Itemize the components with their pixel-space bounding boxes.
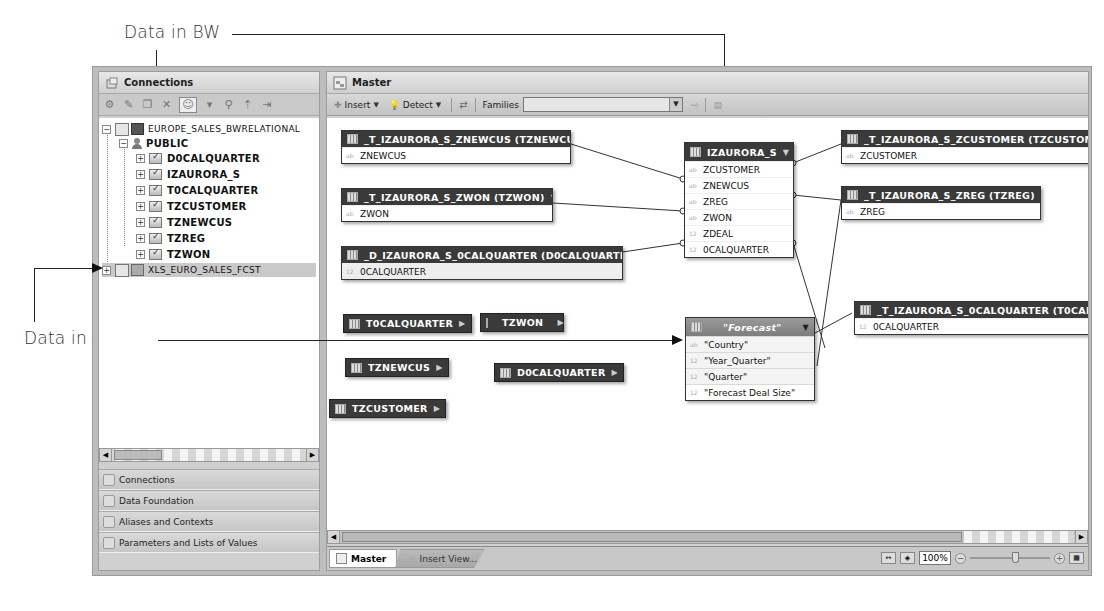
tree-item-table[interactable]: + TZWON bbox=[136, 247, 210, 261]
tree-item-table[interactable]: + IZAURORA_S bbox=[136, 167, 240, 181]
overview-icon[interactable]: ▦ bbox=[1069, 552, 1084, 564]
column-row[interactable]: abZWON bbox=[685, 209, 793, 225]
column-row[interactable]: 120CALQUARTER bbox=[685, 241, 793, 257]
delete-icon[interactable]: ✕ bbox=[160, 98, 173, 111]
table-header[interactable]: _T_IZAURORA_S_0CALQUARTER (T0CALQUARTER) bbox=[855, 302, 1088, 318]
collapsed-table-tznewcus[interactable]: TZNEWCUS ▶ bbox=[345, 358, 449, 377]
tree-item-table[interactable]: + TZREG bbox=[136, 231, 205, 245]
scroll-right-button[interactable]: ▶ bbox=[306, 449, 318, 461]
properties-icon[interactable]: ▤ bbox=[713, 100, 722, 110]
scroll-thumb[interactable] bbox=[114, 450, 162, 460]
column-row[interactable]: 120CALQUARTER bbox=[855, 318, 1088, 334]
column-row[interactable]: 120CALQUARTER bbox=[342, 263, 622, 279]
chevron-down-icon[interactable]: ▼ bbox=[551, 193, 552, 202]
column-row[interactable]: abZWON bbox=[342, 205, 552, 221]
canvas-horizontal-scrollbar[interactable]: ◀ ▶ bbox=[327, 530, 1088, 544]
table-header[interactable]: _T_IZAURORA_S_ZREG (TZREG) ▼ bbox=[842, 187, 1040, 203]
tree-item-excel-connection[interactable]: + XLS_EURO_SALES_FCST bbox=[102, 263, 316, 277]
chevron-down-icon[interactable]: ▼ bbox=[436, 101, 441, 109]
tree-item-table[interactable]: + T0CALQUARTER bbox=[136, 183, 259, 197]
expand-arrow-icon[interactable]: ▶ bbox=[436, 363, 442, 372]
column-row[interactable]: 12"Forecast Deal Size" bbox=[686, 384, 814, 400]
collapse-icon[interactable]: ⇡ bbox=[241, 98, 254, 111]
column-row[interactable]: 12"Quarter" bbox=[686, 368, 814, 384]
column-row[interactable]: abZNEWCUS bbox=[685, 177, 793, 193]
collapsed-table-tzcustomer[interactable]: TZCUSTOMER ▶ bbox=[329, 399, 446, 418]
column-row[interactable]: abZCUSTOMER bbox=[685, 161, 793, 177]
zoom-in-icon[interactable]: + bbox=[1054, 553, 1065, 564]
table-header[interactable]: IZAURORA_S ▼ bbox=[685, 143, 793, 161]
tree-horizontal-scrollbar[interactable]: ◀ ▶ bbox=[99, 448, 319, 462]
tree-item-table[interactable]: + TZCUSTOMER bbox=[136, 199, 247, 213]
zoom-out-icon[interactable]: − bbox=[955, 553, 966, 564]
collapse-toggle-icon[interactable]: − bbox=[119, 139, 128, 148]
zoom-level-input[interactable]: 100% bbox=[919, 551, 951, 565]
column-row[interactable]: 12ZDEAL bbox=[685, 225, 793, 241]
scroll-left-button[interactable]: ◀ bbox=[100, 449, 112, 461]
expand-arrow-icon[interactable]: ▶ bbox=[612, 368, 618, 377]
fit-to-window-icon[interactable]: ↔ bbox=[881, 552, 896, 564]
tree-item-table[interactable]: + TZNEWCUS bbox=[136, 215, 232, 229]
table-header[interactable]: "Forecast" ▼ bbox=[686, 318, 814, 336]
expand-toggle-icon[interactable]: + bbox=[136, 218, 145, 227]
column-row[interactable]: abZNEWCUS bbox=[342, 147, 570, 163]
user-filter-icon[interactable]: ☺ bbox=[179, 97, 197, 113]
zoom-slider-handle[interactable] bbox=[1012, 552, 1019, 563]
copy-icon[interactable]: ❐ bbox=[141, 98, 154, 111]
column-row[interactable]: abZREG bbox=[685, 193, 793, 209]
data-foundation-canvas[interactable]: _T_IZAURORA_S_ZNEWCUS (TZNEWCUS) ▼ abZNE… bbox=[327, 118, 1088, 530]
table-header[interactable]: _D_IZAURORA_S_0CALQUARTER (D0CALQUARTER)… bbox=[342, 247, 622, 263]
collapsed-table-tzwon[interactable]: TZWON ▶ bbox=[480, 313, 564, 332]
table-header[interactable]: _T_IZAURORA_S_ZWON (TZWON) ▼ bbox=[342, 189, 552, 205]
chevron-down-icon[interactable]: ▼ bbox=[783, 148, 789, 157]
zoom-slider[interactable] bbox=[970, 557, 1050, 559]
table-t0calquarter[interactable]: _T_IZAURORA_S_0CALQUARTER (T0CALQUARTER)… bbox=[854, 301, 1088, 335]
tree-item-table[interactable]: + D0CALQUARTER bbox=[136, 151, 260, 165]
table-forecast[interactable]: "Forecast" ▼ ab"Country" 12"Year_Quarter… bbox=[685, 317, 815, 401]
table-tznewcus[interactable]: _T_IZAURORA_S_ZNEWCUS (TZNEWCUS) ▼ abZNE… bbox=[341, 130, 571, 164]
expand-toggle-icon[interactable]: + bbox=[136, 154, 145, 163]
export-icon[interactable]: ⇥ bbox=[260, 98, 273, 111]
collapse-toggle-icon[interactable]: − bbox=[102, 125, 111, 134]
detect-button[interactable]: 💡 Detect ▼ bbox=[386, 100, 444, 110]
table-tzcustomer[interactable]: _T_IZAURORA_S_ZCUSTOMER (TZCUSTOMER) abZ… bbox=[841, 130, 1088, 164]
table-izaurora-s[interactable]: IZAURORA_S ▼ abZCUSTOMER abZNEWCUS abZRE… bbox=[684, 142, 794, 258]
arrange-tables-icon[interactable]: ⇄ bbox=[459, 99, 467, 110]
expand-toggle-icon[interactable]: + bbox=[102, 266, 111, 275]
expand-arrow-icon[interactable]: ▶ bbox=[459, 319, 465, 328]
expand-arrow-icon[interactable]: ▶ bbox=[434, 404, 440, 413]
tab-master[interactable]: Master bbox=[329, 549, 397, 568]
column-row[interactable]: ab"Country" bbox=[686, 336, 814, 352]
nav-data-foundation[interactable]: Data Foundation bbox=[99, 490, 319, 511]
nav-connections[interactable]: Connections bbox=[99, 469, 319, 490]
scroll-right-button[interactable]: ▶ bbox=[1075, 531, 1087, 543]
nav-aliases-and-contexts[interactable]: Aliases and Contexts bbox=[99, 511, 319, 532]
nav-parameters-and-lovs[interactable]: Parameters and Lists of Values bbox=[99, 532, 319, 553]
table-header[interactable]: _T_IZAURORA_S_ZNEWCUS (TZNEWCUS) ▼ bbox=[342, 131, 570, 147]
tree-item-root-connection[interactable]: − EUROPE_SALES_BWRELATIONAL bbox=[102, 122, 300, 136]
find-icon[interactable]: ⚲ bbox=[222, 98, 235, 111]
chevron-down-icon[interactable]: ▼ bbox=[373, 101, 378, 109]
expand-toggle-icon[interactable]: + bbox=[136, 170, 145, 179]
expand-toggle-icon[interactable]: + bbox=[136, 202, 145, 211]
table-tzwon[interactable]: _T_IZAURORA_S_ZWON (TZWON) ▼ abZWON bbox=[341, 188, 553, 222]
new-connection-icon[interactable]: ⚙ bbox=[103, 98, 116, 111]
expand-toggle-icon[interactable]: + bbox=[136, 250, 145, 259]
table-d0calquarter[interactable]: _D_IZAURORA_S_0CALQUARTER (D0CALQUARTER)… bbox=[341, 246, 623, 280]
apply-family-icon[interactable]: ⇨ bbox=[691, 100, 699, 110]
dropdown-icon[interactable]: ▾ bbox=[203, 98, 216, 111]
expand-toggle-icon[interactable]: + bbox=[136, 186, 145, 195]
table-header[interactable]: _T_IZAURORA_S_ZCUSTOMER (TZCUSTOMER) bbox=[842, 131, 1088, 147]
expand-toggle-icon[interactable]: + bbox=[136, 234, 145, 243]
collapsed-table-t0calquarter[interactable]: T0CALQUARTER ▶ bbox=[343, 314, 472, 333]
column-row[interactable]: abZCUSTOMER bbox=[842, 147, 1088, 163]
scroll-left-button[interactable]: ◀ bbox=[328, 531, 340, 543]
chevron-down-icon[interactable]: ▼ bbox=[669, 98, 682, 111]
tab-insert-view[interactable]: ✚ Insert View... bbox=[395, 549, 485, 568]
expand-arrow-icon[interactable]: ▶ bbox=[557, 318, 563, 327]
column-row[interactable]: 12"Year_Quarter" bbox=[686, 352, 814, 368]
zoom-selection-icon[interactable]: ◈ bbox=[900, 552, 915, 564]
collapsed-table-d0calquarter[interactable]: D0CALQUARTER ▶ bbox=[494, 363, 624, 382]
table-tzreg[interactable]: _T_IZAURORA_S_ZREG (TZREG) ▼ abZREG bbox=[841, 186, 1041, 220]
chevron-down-icon[interactable]: ▼ bbox=[803, 323, 809, 332]
